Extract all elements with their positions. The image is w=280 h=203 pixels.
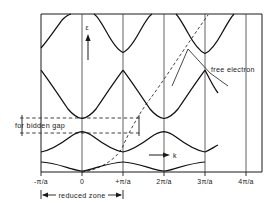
x-tick-label-4: 3π/a (197, 178, 212, 185)
x-tick-label-5: 4π/a (238, 178, 253, 185)
band-diagram-svg: ε k for bidden gap free electron -π/a 0 … (0, 0, 280, 203)
x-tick-marks (41, 172, 246, 176)
x-tick-label-2: +π/a (115, 178, 131, 185)
x-tick-label-1: 0 (80, 178, 84, 185)
x-tick-label-3: 2π/a (156, 178, 171, 185)
x-tick-label-0: -π/a (34, 178, 48, 185)
band-right-arcs (205, 70, 218, 152)
reduced-zone-label: reduced zone (58, 191, 105, 200)
free-electron-label: free electron (211, 65, 255, 74)
k-axis-arrow (149, 152, 170, 157)
plot-frame (41, 14, 262, 172)
band-structure-figure: ε k for bidden gap free electron -π/a 0 … (0, 0, 280, 203)
energy-axis-label: ε (86, 24, 89, 31)
energy-axis-arrow (85, 34, 90, 60)
k-axis-label: k (173, 152, 177, 159)
forbidden-gap-label: for bidden gap (15, 121, 65, 130)
